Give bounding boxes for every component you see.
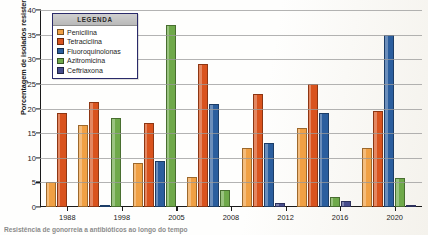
figure-caption: Resistência de gonorreia a antibióticos …: [4, 226, 424, 235]
gridline: [40, 158, 422, 159]
legend-swatch-icon-tetraciclina: [57, 38, 64, 45]
x-tick-wrap-2020: 2020: [370, 207, 420, 227]
y-axis-tick-30: 30: [18, 55, 36, 64]
legend-swatch-icon-azitromicina: [57, 58, 64, 65]
y-axis-tick-25: 25: [18, 79, 36, 88]
legend-label: Ceftriaxona: [67, 67, 103, 74]
legend-item-fluoroquinolonas[interactable]: Fluoroquinolonas: [57, 48, 133, 55]
bar-tetraciclina-1988: [57, 113, 67, 207]
bar-chart: Porcentagem de isolados resistentes 0510…: [0, 0, 428, 235]
gridline: [40, 109, 422, 110]
y-axis-tick-40: 40: [18, 6, 36, 15]
x-tick-mark: [395, 207, 396, 211]
legend-swatch-icon-fluoroquinolonas: [57, 48, 64, 55]
bar-fluoroquinolonas-2005: [155, 161, 165, 207]
bar-fluoroquinolonas-2020: [384, 35, 394, 207]
gridline: [40, 133, 422, 134]
x-tick-wrap-2012: 2012: [261, 207, 311, 227]
bar-tetraciclina-2012: [253, 94, 263, 207]
legend-label: Azitromicina: [67, 57, 105, 64]
legend-title: LEGENDA: [53, 14, 137, 26]
x-axis-tick-1998: 1998: [97, 213, 147, 222]
y-axis-tick-35: 35: [18, 30, 36, 39]
x-axis-tick-2005: 2005: [151, 213, 201, 222]
x-axis-tick-2012: 2012: [261, 213, 311, 222]
bar-tetraciclina-2020: [373, 111, 383, 207]
x-axis-tick-2016: 2016: [315, 213, 365, 222]
x-tick-wrap-2005: 2005: [151, 207, 201, 227]
legend-items: PenicilinaTetraciclinaFluoroquinolonasAz…: [53, 26, 137, 78]
bar-tetraciclina-2016: [308, 84, 318, 207]
legend-item-tetraciclina[interactable]: Tetraciclina: [57, 38, 133, 45]
bar-penicilina-2016: [297, 128, 307, 207]
x-axis-tick-1988: 1988: [42, 213, 92, 222]
bar-penicilina-1998: [78, 125, 88, 207]
legend-label: Fluoroquinolonas: [67, 48, 121, 55]
x-tick-wrap-1998: 1998: [97, 207, 147, 227]
legend-item-ceftriaxona[interactable]: Ceftriaxona: [57, 67, 133, 74]
legend-swatch-icon-penicilina: [57, 29, 64, 36]
x-axis-tick-2020: 2020: [370, 213, 420, 222]
bar-azitromicina-2005: [166, 25, 176, 207]
bar-tetraciclina-1998: [89, 102, 99, 207]
bar-fluoroquinolonas-2016: [319, 113, 329, 207]
y-axis-tick-15: 15: [18, 129, 36, 138]
legend-item-azitromicina[interactable]: Azitromicina: [57, 57, 133, 64]
legend-label: Tetraciclina: [67, 38, 102, 45]
y-axis-tick-10: 10: [18, 153, 36, 162]
x-tick-mark: [176, 207, 177, 211]
bar-fluoroquinolonas-2008: [209, 104, 219, 207]
gridline: [40, 10, 422, 11]
y-axis-tick-labels: 0510152025303540: [12, 0, 36, 235]
x-tick-mark: [67, 207, 68, 211]
bar-azitromicina-2008: [220, 190, 230, 207]
x-tick-wrap-2016: 2016: [315, 207, 365, 227]
legend-box: LEGENDA PenicilinaTetraciclinaFluoroquin…: [52, 13, 138, 79]
bar-fluoroquinolonas-2012: [264, 143, 274, 207]
bar-azitromicina-1998: [111, 118, 121, 207]
bar-tetraciclina-2008: [198, 64, 208, 207]
x-tick-mark: [286, 207, 287, 211]
y-axis-tick-5: 5: [18, 178, 36, 187]
bar-penicilina-2005: [133, 163, 143, 207]
x-tick-mark: [122, 207, 123, 211]
legend-label: Penicilina: [67, 29, 97, 36]
bar-penicilina-1988: [46, 182, 56, 207]
legend-item-penicilina[interactable]: Penicilina: [57, 29, 133, 36]
bar-azitromicina-2016: [330, 197, 340, 207]
x-tick-mark: [231, 207, 232, 211]
legend-swatch-icon-ceftriaxona: [57, 67, 64, 74]
y-axis-tick-20: 20: [18, 104, 36, 113]
x-tick-wrap-1988: 1988: [42, 207, 92, 227]
y-axis-tick-0: 0: [18, 203, 36, 212]
x-tick-wrap-2008: 2008: [206, 207, 256, 227]
gridline: [40, 182, 422, 183]
x-axis-tick-labels: 1988199820052008201220162020: [40, 207, 422, 227]
gridline: [40, 84, 422, 85]
bar-tetraciclina-2005: [144, 123, 154, 207]
x-tick-mark: [340, 207, 341, 211]
x-axis-tick-2008: 2008: [206, 213, 256, 222]
